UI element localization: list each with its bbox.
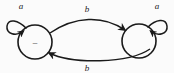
edge-top-arc — [50, 19, 125, 33]
edge-label-top-arc: b — [85, 4, 90, 14]
edge-left-self-loop — [7, 21, 27, 34]
automaton-canvas: – a b b a — [0, 0, 174, 73]
node-right — [122, 24, 156, 58]
edge-label-left-self-loop: a — [19, 1, 24, 11]
edge-bottom-arc — [49, 49, 150, 61]
edge-label-bottom-arc: b — [85, 63, 90, 73]
node-left-label: – — [32, 37, 38, 47]
automaton-diagram: – a b b a — [0, 0, 174, 73]
edge-right-self-loop — [148, 21, 168, 35]
edge-label-right-self-loop: a — [155, 1, 160, 11]
